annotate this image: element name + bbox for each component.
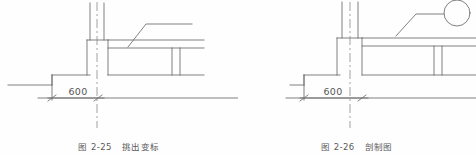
dimension-label-600: 600 <box>68 86 87 97</box>
dimension-label-600: 600 <box>323 86 342 97</box>
figure-left-caption: 图 2-25 挑出变标 <box>0 141 238 154</box>
figure-right-caption-title: 剖制图 <box>365 142 393 152</box>
leader-line <box>396 14 444 36</box>
figure-left-caption-number: 图 2-25 <box>78 142 111 152</box>
figure-right-caption: 图 2-26 剖制图 <box>238 141 476 154</box>
figure-left-caption-title: 挑出变标 <box>122 142 160 152</box>
detail-bubble-circle <box>444 0 470 26</box>
figure-right-caption-number: 图 2-26 <box>321 142 354 152</box>
figure-right: 600 图 2-26 剖制图 <box>238 0 476 154</box>
leader-line <box>128 24 192 47</box>
figure-left-drawing: 600 <box>0 0 238 140</box>
figure-right-drawing: 600 <box>238 0 476 140</box>
drawing-sheet: 600 图 2-25 挑出变标 <box>0 0 476 154</box>
figure-left: 600 图 2-25 挑出变标 <box>0 0 238 154</box>
